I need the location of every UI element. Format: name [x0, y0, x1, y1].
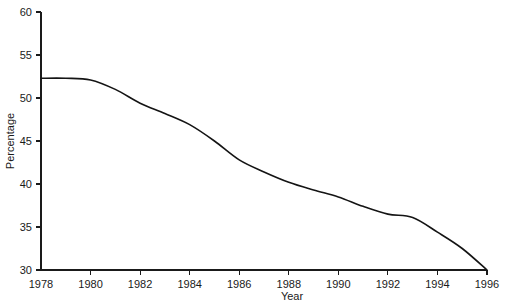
- x-tick-label: 1986: [227, 278, 251, 290]
- x-tick-label: 1994: [425, 278, 449, 290]
- y-axis-title: Percentage: [4, 113, 16, 169]
- x-tick-label: 1978: [29, 278, 53, 290]
- x-axis-ticks: [91, 270, 487, 275]
- y-tick-label: 40: [20, 178, 32, 190]
- y-tick-label: 55: [20, 49, 32, 61]
- y-tick-label: 60: [20, 6, 32, 18]
- x-tick-label: 1980: [78, 278, 102, 290]
- x-tick-label: 1996: [475, 278, 499, 290]
- x-axis-tick-labels: 1978198019821984198619881990199219941996: [29, 278, 499, 290]
- y-axis-ticks: [36, 12, 41, 270]
- x-tick-label: 1992: [376, 278, 400, 290]
- x-tick-label: 1988: [277, 278, 301, 290]
- x-tick-label: 1984: [177, 278, 201, 290]
- y-tick-label: 45: [20, 135, 32, 147]
- axis-spines: [41, 12, 487, 270]
- x-tick-label: 1982: [128, 278, 152, 290]
- x-tick-label: 1990: [326, 278, 350, 290]
- y-tick-label: 50: [20, 92, 32, 104]
- x-axis-title: Year: [281, 290, 304, 302]
- data-series-line: [41, 78, 487, 270]
- line-chart: 30354045505560 1978198019821984198619881…: [0, 0, 507, 308]
- y-tick-label: 30: [20, 264, 32, 276]
- y-axis-tick-labels: 30354045505560: [20, 6, 32, 276]
- chart-canvas: 30354045505560 1978198019821984198619881…: [0, 0, 507, 308]
- y-tick-label: 35: [20, 221, 32, 233]
